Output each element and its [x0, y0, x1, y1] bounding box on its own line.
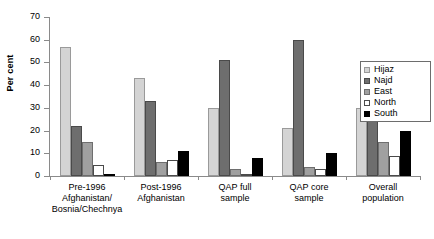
bar-north-group-4 [315, 169, 326, 176]
bar-hijaz-group-1 [60, 47, 71, 176]
bar-north-group-1 [93, 165, 104, 176]
bar-east-group-3 [230, 169, 241, 176]
bar-south-group-3 [252, 158, 263, 176]
y-axis-tick-label: 40 [0, 80, 40, 89]
legend-item-najd[interactable]: Najd [364, 75, 426, 86]
legend-swatch-icon [364, 89, 370, 95]
x-axis-separator [420, 176, 421, 180]
bar-south-group-2 [178, 151, 189, 176]
legend-swatch-icon [364, 111, 370, 117]
bar-south-group-5 [400, 131, 411, 176]
y-axis-tick-label: 20 [0, 126, 40, 135]
bar-north-group-2 [167, 160, 178, 176]
x-axis-separator [124, 176, 125, 180]
x-axis-label-line: Overall [334, 182, 432, 193]
bar-east-group-5 [378, 142, 389, 176]
y-axis-tick [44, 108, 49, 109]
legend-item-south[interactable]: South [364, 108, 426, 119]
legend-item-label: Najd [374, 75, 393, 86]
bar-north-group-3 [241, 174, 252, 176]
legend-item-label: South [374, 108, 398, 119]
x-axis-separator [50, 176, 51, 180]
x-axis-separator [346, 176, 347, 180]
y-axis-tick [44, 85, 49, 86]
bar-najd-group-3 [219, 60, 230, 176]
y-axis-tick [44, 153, 49, 154]
bar-south-group-1 [104, 174, 115, 176]
bar-hijaz-group-2 [134, 78, 145, 176]
y-axis-tick [44, 40, 49, 41]
bar-najd-group-4 [293, 40, 304, 176]
y-axis-tick [44, 17, 49, 18]
bar-south-group-4 [326, 153, 337, 176]
bar-najd-group-1 [71, 126, 82, 176]
bar-east-group-4 [304, 167, 315, 176]
legend-item-east[interactable]: East [364, 86, 426, 97]
bar-najd-group-2 [145, 101, 156, 176]
y-axis-tick-label: 60 [0, 35, 40, 44]
bar-east-group-1 [82, 142, 93, 176]
legend-item-label: Hijaz [374, 64, 394, 75]
legend: HijazNajdEastNorthSouth [360, 61, 431, 122]
y-axis-tick-label: 0 [0, 171, 40, 180]
legend-item-north[interactable]: North [364, 97, 426, 108]
y-axis-tick-label: 50 [0, 57, 40, 66]
x-axis-label-line: Bosnia/Chechnya [38, 204, 136, 215]
bar-hijaz-group-3 [208, 108, 219, 176]
x-axis-line [49, 176, 420, 177]
legend-swatch-icon [364, 100, 370, 106]
legend-item-hijaz[interactable]: Hijaz [364, 64, 426, 75]
x-axis-separator [272, 176, 273, 180]
legend-item-label: North [374, 97, 396, 108]
bar-najd-group-5 [367, 119, 378, 176]
legend-swatch-icon [364, 78, 370, 84]
x-axis-labels: Pre-1996Afghanistan/Bosnia/ChechnyaPost-… [50, 182, 420, 238]
y-axis-tick [44, 131, 49, 132]
bar-north-group-5 [389, 156, 400, 176]
bar-east-group-2 [156, 162, 167, 176]
y-axis-tick-label: 70 [0, 12, 40, 21]
y-axis-tick [44, 62, 49, 63]
y-axis-tick-label: 30 [0, 103, 40, 112]
legend-swatch-icon [364, 67, 370, 73]
y-axis-tick-label: 10 [0, 148, 40, 157]
x-axis-label-group-5: Overallpopulation [334, 182, 432, 204]
y-axis-title: Per cent [5, 41, 15, 105]
bar-hijaz-group-4 [282, 128, 293, 176]
bar-chart: Per cent 010203040506070 Pre-1996Afghani… [0, 0, 434, 239]
legend-item-label: East [374, 86, 392, 97]
x-axis-separator [198, 176, 199, 180]
x-axis-label-line: population [334, 193, 432, 204]
y-axis-tick [44, 176, 49, 177]
